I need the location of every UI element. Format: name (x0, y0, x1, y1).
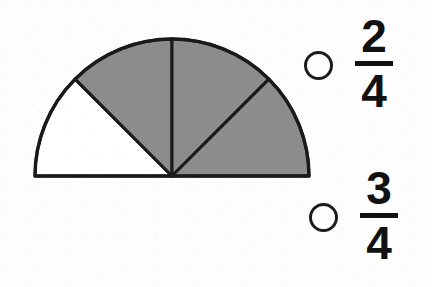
fraction-2-4: 2 4 (355, 14, 393, 113)
fraction-numerator: 3 (366, 166, 392, 210)
fraction-denominator: 4 (361, 69, 387, 113)
answer-option-3-4[interactable]: 3 4 (309, 170, 398, 265)
fraction-numerator: 2 (361, 14, 387, 58)
radio-bubble-option-b[interactable] (309, 203, 338, 232)
radio-bubble-option-a[interactable] (304, 51, 333, 80)
answer-option-2-4[interactable]: 2 4 (304, 18, 393, 113)
worksheet-page: 2 4 3 4 (0, 0, 432, 287)
fraction-denominator: 4 (366, 221, 392, 265)
fraction-3-4: 3 4 (360, 166, 398, 265)
